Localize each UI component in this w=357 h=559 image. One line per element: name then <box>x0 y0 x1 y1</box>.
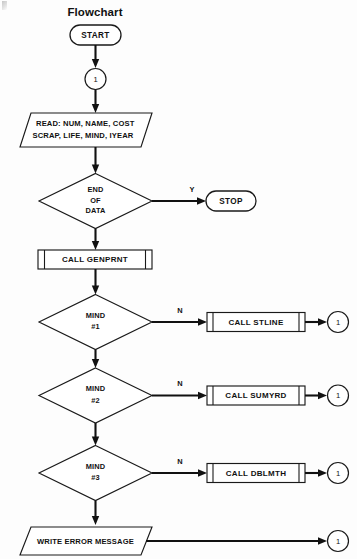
node-sumyrd-label: CALL SUMYRD <box>225 391 286 400</box>
node-stline-label: CALL STLINE <box>228 318 284 327</box>
node-connector-sumyrd-label: 1 <box>336 391 340 400</box>
node-mind1: MIND #1 <box>39 295 152 350</box>
node-connector-bottom-label: 1 <box>336 537 340 546</box>
node-mind1-line1: MIND <box>86 311 106 320</box>
edge-mind1-no: N <box>152 306 207 326</box>
node-write-error: WRITE ERROR MESSAGE <box>20 527 152 555</box>
node-end-of-data-line3: DATA <box>85 206 106 215</box>
edge-mind3-no: N <box>152 457 207 477</box>
edge-end-of-data-to-genprnt <box>92 229 99 251</box>
node-end-of-data-line2: OF <box>90 196 101 205</box>
node-connector-stline-label: 1 <box>336 318 340 327</box>
node-genprnt: CALL GENPRNT <box>38 250 152 269</box>
node-read: READ: NUM, NAME, COST SCRAP, LIFE, MIND,… <box>20 113 152 147</box>
node-connector-dblmth-label: 1 <box>336 469 340 478</box>
node-end-of-data: END OF DATA <box>39 174 152 229</box>
edge-mind1-to-mind2 <box>92 350 99 369</box>
edge-write-error-to-connector <box>146 537 327 544</box>
branch-label-mind1-no: N <box>177 306 182 315</box>
node-start: START <box>70 25 121 45</box>
node-stline: CALL STLINE <box>207 313 305 332</box>
branch-label-mind3-no: N <box>177 457 182 466</box>
edge-start-to-connector <box>92 45 99 68</box>
node-connector-stline: 1 <box>328 312 349 333</box>
node-connector-top: 1 <box>85 69 106 90</box>
node-stop: STOP <box>206 191 256 211</box>
node-mind2-line1: MIND <box>86 384 106 393</box>
node-genprnt-label: CALL GENPRNT <box>62 255 128 264</box>
edge-sumyrd-to-connector <box>305 392 327 399</box>
node-dblmth: CALL DBLMTH <box>207 464 305 483</box>
node-mind2-line2: #2 <box>91 396 100 405</box>
node-mind3-line1: MIND <box>86 462 106 471</box>
branch-label-end-of-data-yes: Y <box>190 185 195 194</box>
edge-end-of-data-yes: Y <box>152 185 206 205</box>
node-stop-label: STOP <box>219 197 243 206</box>
flowchart-canvas: Flowchart START 1 READ: NUM, NAME, COST … <box>0 0 357 559</box>
edge-dblmth-to-connector <box>305 469 327 476</box>
node-mind1-line2: #1 <box>91 322 100 331</box>
node-dblmth-label: CALL DBLMTH <box>226 469 286 478</box>
node-mind3: MIND #3 <box>39 446 152 501</box>
edge-mind2-to-mind3 <box>92 423 99 446</box>
edge-stline-to-connector <box>305 318 327 325</box>
page-corner-artifact <box>2 1 7 10</box>
node-connector-bottom: 1 <box>328 531 349 552</box>
edge-mind3-to-write-error <box>92 501 99 526</box>
node-end-of-data-line1: END <box>87 185 104 194</box>
node-mind2: MIND #2 <box>39 368 152 423</box>
edge-read-to-end-of-data <box>92 147 99 174</box>
diagram-title: Flowchart <box>67 6 122 18</box>
node-connector-dblmth: 1 <box>328 463 349 484</box>
flowchart-diagram: Flowchart START 1 READ: NUM, NAME, COST … <box>0 0 357 559</box>
node-mind3-line2: #3 <box>91 473 100 482</box>
node-connector-sumyrd: 1 <box>328 385 349 406</box>
edge-mind2-no: N <box>152 379 207 399</box>
edge-genprnt-to-mind1 <box>92 269 99 295</box>
node-write-error-label: WRITE ERROR MESSAGE <box>37 537 134 546</box>
node-start-label: START <box>81 31 109 40</box>
branch-label-mind2-no: N <box>177 379 182 388</box>
edge-connector-to-read <box>92 90 99 114</box>
node-sumyrd: CALL SUMYRD <box>207 386 305 405</box>
node-read-line2: SCRAP, LIFE, MIND, IYEAR <box>33 131 134 140</box>
node-connector-top-label: 1 <box>93 75 97 84</box>
node-read-line1: READ: NUM, NAME, COST <box>36 119 135 128</box>
